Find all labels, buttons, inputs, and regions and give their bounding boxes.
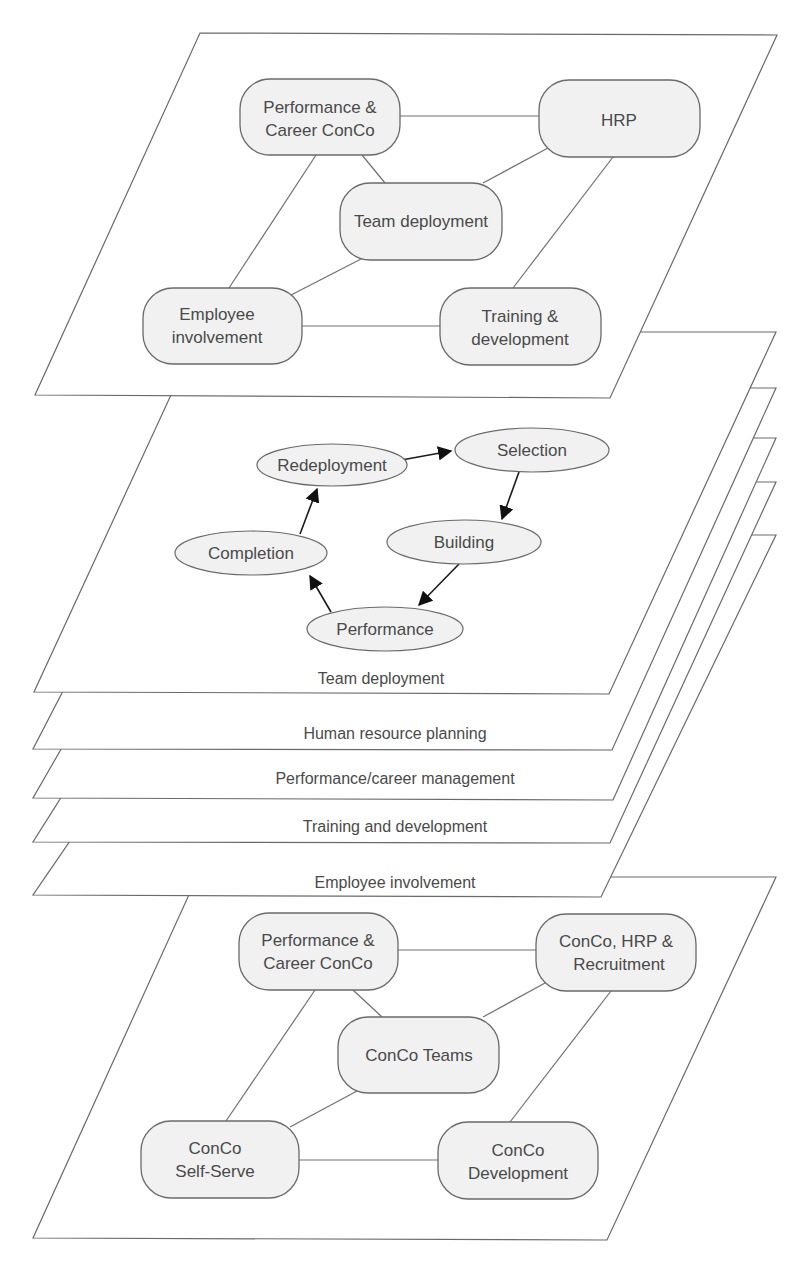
svg-text:development: development: [471, 330, 569, 349]
svg-text:involvement: involvement: [172, 328, 263, 347]
node-team-deployment: Team deployment: [340, 183, 502, 260]
node-building: Building: [387, 520, 541, 564]
svg-text:Recruitment: Recruitment: [573, 955, 665, 974]
svg-text:Completion: Completion: [208, 544, 294, 563]
node-selection: Selection: [455, 428, 609, 472]
svg-text:Team deployment: Team deployment: [354, 212, 488, 231]
svg-text:Performance: Performance: [336, 620, 433, 639]
svg-text:Career ConCo: Career ConCo: [263, 954, 373, 973]
svg-text:Training and development: Training and development: [303, 818, 488, 835]
svg-text:Selection: Selection: [497, 441, 567, 460]
node-employee-involvement: Employee involvement: [143, 288, 302, 364]
team-plane-label: Team deployment: [318, 670, 445, 687]
svg-text:Human resource planning: Human resource planning: [303, 725, 486, 742]
svg-text:Redeployment: Redeployment: [277, 456, 387, 475]
layered-hr-diagram: Performance & Career ConCo ConCo, HRP & …: [0, 0, 802, 1262]
node-training-development: Training & development: [440, 288, 601, 365]
svg-text:Self-Serve: Self-Serve: [175, 1162, 254, 1181]
node-conco-development: ConCo Development: [438, 1122, 598, 1199]
node-perf-career-bottom: Performance & Career ConCo: [239, 913, 398, 990]
svg-text:ConCo, HRP &: ConCo, HRP &: [559, 932, 674, 951]
svg-text:Career ConCo: Career ConCo: [265, 121, 375, 140]
svg-text:Performance &: Performance &: [261, 931, 375, 950]
node-hrp: HRP: [539, 80, 700, 157]
node-completion: Completion: [175, 531, 327, 575]
bottom-plane: Performance & Career ConCo ConCo, HRP & …: [33, 877, 776, 1240]
node-conco-hrp-recruitment: ConCo, HRP & Recruitment: [536, 914, 696, 991]
svg-text:HRP: HRP: [601, 111, 637, 130]
svg-text:Performance &: Performance &: [263, 98, 377, 117]
svg-text:Employee involvement: Employee involvement: [315, 874, 477, 891]
svg-text:ConCo: ConCo: [189, 1139, 242, 1158]
node-conco-teams: ConCo Teams: [338, 1017, 499, 1093]
svg-text:Building: Building: [434, 533, 495, 552]
node-redeployment: Redeployment: [257, 444, 407, 486]
svg-text:Training &: Training &: [482, 307, 560, 326]
node-perf-career-top: Performance & Career ConCo: [240, 79, 400, 155]
svg-text:Employee: Employee: [179, 305, 255, 324]
node-conco-self-serve: ConCo Self-Serve: [141, 1121, 299, 1198]
node-performance: Performance: [307, 607, 463, 651]
svg-text:Performance/career management: Performance/career management: [275, 770, 515, 787]
svg-text:Development: Development: [468, 1164, 568, 1183]
svg-text:ConCo: ConCo: [492, 1141, 545, 1160]
svg-text:ConCo Teams: ConCo Teams: [365, 1046, 472, 1065]
